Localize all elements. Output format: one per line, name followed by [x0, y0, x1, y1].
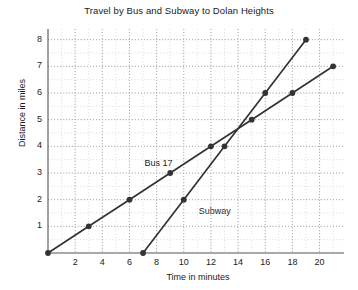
x-tick-label: 4: [89, 257, 115, 267]
chart-title: Travel by Bus and Subway to Dolan Height…: [0, 5, 358, 16]
x-tick-label: 12: [198, 257, 224, 267]
y-tick-label: 2: [16, 194, 42, 204]
x-tick-label: 6: [116, 257, 142, 267]
plot-svg: [48, 29, 344, 253]
data-point-marker: [167, 170, 173, 176]
x-tick-label: 14: [225, 257, 251, 267]
x-tick-label: 18: [279, 257, 305, 267]
data-point-marker: [127, 197, 133, 203]
data-point-marker: [290, 90, 296, 96]
plot-area: [48, 29, 344, 253]
chart-container: Travel by Bus and Subway to Dolan Height…: [0, 0, 358, 290]
x-tick-label: 20: [307, 257, 333, 267]
y-tick-label: 1: [16, 220, 42, 230]
y-tick-label: 8: [16, 34, 42, 44]
y-tick-label: 5: [16, 114, 42, 124]
gridlines-minor: [48, 29, 344, 253]
y-tick-label: 4: [16, 140, 42, 150]
x-tick-label: 16: [252, 257, 278, 267]
data-point-marker: [303, 37, 309, 43]
x-tick-label: 10: [171, 257, 197, 267]
data-point-marker: [140, 250, 146, 256]
data-point-marker: [249, 117, 255, 123]
data-point-marker: [86, 223, 92, 229]
y-tick-label: 3: [16, 167, 42, 177]
data-point-marker: [222, 143, 228, 149]
gridlines-major: [48, 29, 344, 253]
data-point-marker: [330, 63, 336, 69]
y-tick-label: 7: [16, 60, 42, 70]
data-point-marker: [208, 143, 214, 149]
x-axis-label: Time in minutes: [48, 272, 348, 282]
x-tick-label: 2: [62, 257, 88, 267]
data-point-marker: [181, 197, 187, 203]
y-tick-label: 6: [16, 87, 42, 97]
data-point-marker: [45, 250, 51, 256]
data-point-marker: [262, 90, 268, 96]
x-tick-label: 8: [144, 257, 170, 267]
